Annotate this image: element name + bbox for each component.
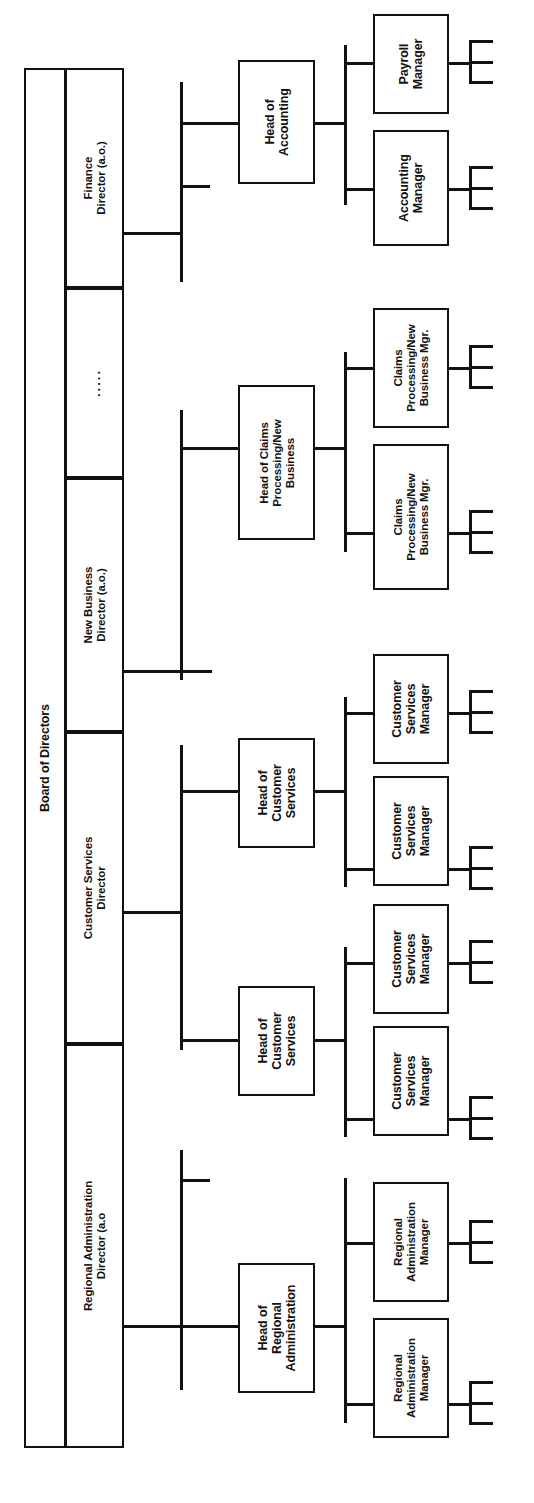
connector-spine-to-head-cs-2 xyxy=(180,1039,240,1042)
head-label-customer-services-1: Head of Customer Services xyxy=(256,764,298,822)
director-cell-finance[interactable]: Finance Director (a.o.) xyxy=(65,68,124,288)
terminator-comb-regadmin-2 xyxy=(469,1381,503,1425)
director-label-customer-services: Customer Services Director xyxy=(82,837,108,940)
director-label-regional-administration: Regional Administration Director (a.o xyxy=(82,1181,108,1311)
connector-customer-services-to-spine xyxy=(124,911,182,914)
connector-new-business-to-spine xyxy=(124,670,212,673)
manager-label-customer-services-4: Customer Services Manager xyxy=(390,1052,432,1110)
manager-label-accounting: Accounting Manager xyxy=(397,154,425,222)
head-label-claims-processing-new-business: Head of Claims Processing/New Business xyxy=(257,419,296,506)
terminator-comb-cs-2 xyxy=(469,846,503,890)
terminator-stem-regadmin-2 xyxy=(449,1403,471,1406)
spine-finance xyxy=(180,82,183,282)
manager-label-payroll: Payroll Manager xyxy=(397,39,425,90)
terminator-stem-cs-1 xyxy=(449,712,471,715)
manager-box-claims-2[interactable]: Claims Processing/New Business Mgr. xyxy=(373,444,449,590)
head-label-accounting: Head of Accounting xyxy=(263,88,291,156)
connector-spine-to-mgr-cs-1 xyxy=(344,712,375,715)
head-box-customer-services-2[interactable]: Head of Customer Services xyxy=(238,986,315,1096)
connector-head-accounting-to-spine xyxy=(315,122,347,125)
board-of-directors-label: Board of Directors xyxy=(38,704,52,812)
manager-box-customer-services-4[interactable]: Customer Services Manager xyxy=(373,1026,449,1136)
stub-regional-administration-vacant xyxy=(180,1179,210,1182)
terminator-stem-regadmin-1 xyxy=(449,1242,471,1245)
connector-spine-to-mgr-regadmin-1 xyxy=(344,1242,375,1245)
terminator-stem-payroll xyxy=(449,62,471,65)
head-box-claims-processing-new-business[interactable]: Head of Claims Processing/New Business xyxy=(238,385,315,540)
director-ellipsis-label: ..... xyxy=(87,369,102,397)
manager-label-claims-1: Claims Processing/New Business Mgr. xyxy=(392,324,431,411)
manager-label-regional-administration-2: Regional Administration Manager xyxy=(392,1338,431,1418)
manager-box-payroll[interactable]: Payroll Manager xyxy=(373,14,449,114)
org-chart: Board of Directors Finance Director (a.o… xyxy=(0,0,534,1503)
manager-label-customer-services-2: Customer Services Manager xyxy=(390,802,432,860)
spine-new-business xyxy=(180,410,183,680)
terminator-stem-cs-3 xyxy=(449,962,471,965)
terminator-comb-payroll xyxy=(469,40,503,84)
terminator-stem-claims-2 xyxy=(449,532,471,535)
connector-spine-to-mgr-cs-2 xyxy=(344,868,375,871)
connector-regional-administration-to-spine xyxy=(124,1325,182,1328)
connector-spine-to-head-cs-1 xyxy=(180,790,240,793)
director-cell-regional-administration[interactable]: Regional Administration Director (a.o xyxy=(65,1044,124,1448)
terminator-comb-cs-4 xyxy=(469,1096,503,1140)
spine-cs-2-managers xyxy=(344,947,347,1137)
manager-label-regional-administration-1: Regional Administration Manager xyxy=(392,1202,431,1282)
head-box-regional-administration[interactable]: Head of Regional Administration xyxy=(238,1263,315,1393)
terminator-comb-cs-3 xyxy=(469,940,503,984)
connector-spine-to-mgr-payroll xyxy=(344,62,375,65)
director-label-finance: Finance Director (a.o.) xyxy=(82,141,108,214)
connector-spine-to-head-claims xyxy=(180,447,240,450)
connector-spine-to-head-accounting xyxy=(180,122,240,125)
manager-box-claims-1[interactable]: Claims Processing/New Business Mgr. xyxy=(373,308,449,428)
director-cell-customer-services[interactable]: Customer Services Director xyxy=(65,732,124,1044)
terminator-stem-claims-1 xyxy=(449,367,471,370)
connector-head-cs-2-to-spine xyxy=(315,1039,347,1042)
director-cell-new-business[interactable]: New Business Director (a.o.) xyxy=(65,478,124,732)
terminator-stem-cs-4 xyxy=(449,1118,471,1121)
head-label-regional-administration: Head of Regional Administration xyxy=(256,1285,298,1372)
terminator-stem-cs-2 xyxy=(449,868,471,871)
director-cell-ellipsis: ..... xyxy=(65,288,124,478)
manager-box-customer-services-2[interactable]: Customer Services Manager xyxy=(373,776,449,886)
manager-box-customer-services-3[interactable]: Customer Services Manager xyxy=(373,904,449,1014)
terminator-comb-accounting xyxy=(469,166,503,210)
spine-accounting-managers xyxy=(344,45,347,205)
terminator-comb-claims-1 xyxy=(469,345,503,389)
spine-regional-administration xyxy=(180,1150,183,1390)
connector-spine-to-mgr-claims-1 xyxy=(344,367,375,370)
connector-spine-to-mgr-cs-3 xyxy=(344,962,375,965)
head-label-customer-services-2: Head of Customer Services xyxy=(256,1012,298,1070)
manager-label-claims-2: Claims Processing/New Business Mgr. xyxy=(392,473,431,560)
connector-spine-to-head-regadmin xyxy=(180,1325,240,1328)
spine-claims-managers xyxy=(344,352,347,552)
manager-box-accounting[interactable]: Accounting Manager xyxy=(373,130,449,246)
manager-box-customer-services-1[interactable]: Customer Services Manager xyxy=(373,654,449,764)
manager-box-regional-administration-2[interactable]: Regional Administration Manager xyxy=(373,1318,449,1438)
manager-label-customer-services-3: Customer Services Manager xyxy=(390,930,432,988)
spine-cs-1-managers xyxy=(344,697,347,887)
connector-spine-to-mgr-accounting xyxy=(344,188,375,191)
spine-regadmin-managers xyxy=(344,1178,347,1423)
terminator-comb-cs-1 xyxy=(469,690,503,734)
connector-spine-to-mgr-claims-2 xyxy=(344,532,375,535)
manager-label-customer-services-1: Customer Services Manager xyxy=(390,680,432,738)
connector-head-cs-1-to-spine xyxy=(315,790,347,793)
terminator-comb-claims-2 xyxy=(469,510,503,554)
director-label-new-business: New Business Director (a.o.) xyxy=(82,567,108,644)
connector-head-claims-to-spine xyxy=(315,447,347,450)
terminator-comb-regadmin-1 xyxy=(469,1220,503,1264)
connector-head-regadmin-to-spine xyxy=(315,1325,347,1328)
terminator-stem-accounting xyxy=(449,188,471,191)
connector-spine-to-mgr-cs-4 xyxy=(344,1118,375,1121)
manager-box-regional-administration-1[interactable]: Regional Administration Manager xyxy=(373,1182,449,1302)
connector-spine-to-mgr-regadmin-2 xyxy=(344,1403,375,1406)
board-of-directors-bar: Board of Directors xyxy=(24,68,66,1448)
head-box-accounting[interactable]: Head of Accounting xyxy=(238,60,315,184)
stub-finance-vacant xyxy=(180,185,210,188)
head-box-customer-services-1[interactable]: Head of Customer Services xyxy=(238,738,315,848)
connector-finance-to-spine xyxy=(124,232,182,235)
